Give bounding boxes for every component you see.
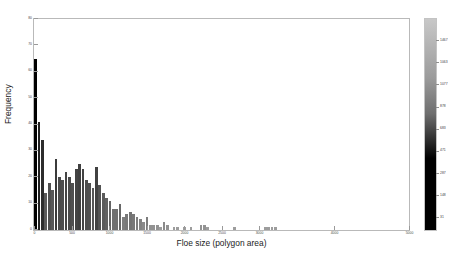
y-tick-label: 10 bbox=[28, 201, 32, 204]
x-tick-label: 3000 bbox=[256, 232, 264, 235]
histogram-bar bbox=[139, 219, 142, 230]
x-tick-label: 1000 bbox=[106, 232, 114, 235]
histogram-bars bbox=[34, 19, 409, 230]
x-tick-label: 500 bbox=[69, 232, 75, 235]
x-tick-label: 4000 bbox=[331, 232, 339, 235]
histogram-bar bbox=[132, 214, 135, 230]
histogram-bar bbox=[274, 227, 277, 230]
histogram-bar bbox=[41, 140, 44, 230]
x-tick-label: 0 bbox=[34, 232, 36, 235]
histogram-bar bbox=[105, 198, 108, 230]
y-tick-label: 80 bbox=[28, 17, 32, 20]
y-tick-label: 60 bbox=[28, 70, 32, 73]
colorbar-tick: 1063 bbox=[436, 62, 439, 63]
y-tick-label: 50 bbox=[28, 96, 32, 99]
colorbar-tick-label: 1063 bbox=[440, 61, 448, 64]
histogram-bar bbox=[149, 225, 152, 230]
colorbar-tick-label: 1467 bbox=[440, 39, 448, 42]
histogram-bar bbox=[82, 169, 85, 230]
histogram-bar bbox=[75, 169, 78, 230]
histogram-bar bbox=[264, 227, 267, 230]
histogram-bar bbox=[173, 227, 176, 230]
histogram-bar bbox=[166, 225, 169, 230]
y-tick-label: 20 bbox=[28, 175, 32, 178]
colorbar-tick-label: 148 bbox=[440, 194, 446, 197]
histogram-bar bbox=[152, 225, 155, 230]
x-tick: 1000 bbox=[109, 226, 110, 230]
y-tick: 50 bbox=[34, 97, 38, 98]
colorbar-tick-label: 1077 bbox=[440, 83, 448, 86]
x-tick: 4000 bbox=[334, 226, 335, 230]
x-tick: 1500 bbox=[147, 226, 148, 230]
histogram-bar bbox=[176, 227, 179, 230]
histogram-bar bbox=[88, 183, 91, 230]
x-tick: 5000 bbox=[409, 226, 410, 230]
histogram-bar bbox=[51, 190, 54, 230]
x-tick-label: 5000 bbox=[406, 232, 414, 235]
y-tick-label: 70 bbox=[28, 43, 32, 46]
x-tick: 500 bbox=[72, 226, 73, 230]
histogram-bar bbox=[85, 180, 88, 230]
x-tick-label: 2000 bbox=[181, 232, 189, 235]
y-tick: 40 bbox=[34, 124, 38, 125]
histogram-bar bbox=[98, 185, 101, 230]
y-tick: 10 bbox=[34, 203, 38, 204]
histogram-bar bbox=[233, 227, 236, 230]
histogram-bar bbox=[136, 217, 139, 230]
y-tick-label: 0 bbox=[30, 228, 32, 231]
histogram-bar bbox=[65, 172, 68, 230]
histogram-bar bbox=[267, 227, 270, 230]
colorbar: 14671063107787868347128714831 bbox=[424, 18, 437, 231]
histogram-bar bbox=[95, 167, 98, 230]
y-tick: 20 bbox=[34, 176, 38, 177]
x-tick: 2500 bbox=[222, 226, 223, 230]
plot-area: 01020304050607080 0500100015002000250030… bbox=[33, 18, 410, 231]
histogram-bar bbox=[68, 177, 71, 230]
colorbar-tick: 683 bbox=[436, 129, 439, 130]
histogram-bar bbox=[129, 212, 132, 230]
histogram-bar bbox=[203, 225, 206, 230]
histogram-bar bbox=[38, 122, 41, 230]
histogram-bar bbox=[206, 227, 209, 230]
colorbar-tick: 878 bbox=[436, 107, 439, 108]
histogram-bar bbox=[34, 59, 37, 230]
colorbar-tick-label: 287 bbox=[440, 172, 446, 175]
histogram-bar bbox=[55, 159, 58, 230]
colorbar-tick: 1077 bbox=[436, 84, 439, 85]
histogram-bar bbox=[71, 183, 74, 230]
colorbar-tick-label: 471 bbox=[440, 150, 446, 153]
colorbar-gradient bbox=[425, 19, 436, 230]
x-tick-label: 2500 bbox=[218, 232, 226, 235]
y-tick-label: 30 bbox=[28, 149, 32, 152]
histogram-bar bbox=[115, 209, 118, 230]
histogram-bar bbox=[78, 164, 81, 230]
colorbar-tick-label: 878 bbox=[440, 105, 446, 108]
y-tick: 80 bbox=[34, 18, 38, 19]
histogram-bar bbox=[112, 209, 115, 230]
histogram-bar bbox=[200, 225, 203, 230]
histogram-bar bbox=[156, 225, 159, 230]
colorbar-tick: 287 bbox=[436, 173, 439, 174]
histogram-bar bbox=[142, 222, 145, 230]
histogram-bar bbox=[119, 204, 122, 230]
colorbar-tick: 1467 bbox=[436, 40, 439, 41]
x-axis-label: Floe size (polygon area) bbox=[33, 239, 410, 247]
x-tick: 3000 bbox=[259, 226, 260, 230]
colorbar-tick: 148 bbox=[436, 195, 439, 196]
histogram-bar bbox=[163, 222, 166, 230]
y-tick: 70 bbox=[34, 44, 38, 45]
histogram-bar bbox=[92, 188, 95, 230]
histogram-bar bbox=[125, 214, 128, 230]
colorbar-tick-label: 31 bbox=[440, 216, 444, 219]
colorbar-tick: 31 bbox=[436, 217, 439, 218]
colorbar-tick: 471 bbox=[436, 151, 439, 152]
histogram-bar bbox=[44, 193, 47, 230]
histogram-bar bbox=[271, 227, 274, 230]
figure-canvas: 01020304050607080 0500100015002000250030… bbox=[0, 0, 459, 260]
histogram-bar bbox=[102, 193, 105, 230]
x-tick: 0 bbox=[34, 226, 35, 230]
histogram-bar bbox=[122, 217, 125, 230]
y-tick-label: 40 bbox=[28, 122, 32, 125]
y-tick: 30 bbox=[34, 150, 38, 151]
x-tick: 2000 bbox=[184, 226, 185, 230]
